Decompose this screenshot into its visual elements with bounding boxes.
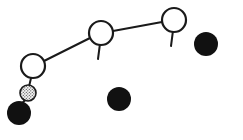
solid-nodes-layer — [7, 32, 218, 125]
solid-node-circle — [194, 32, 218, 56]
open-node-circle — [21, 54, 45, 78]
stipple-nodes-layer — [20, 85, 36, 101]
open-node-circle — [162, 8, 186, 32]
open-nodes-layer — [21, 8, 186, 78]
solid-node-circle — [107, 87, 131, 111]
node-stem — [98, 44, 100, 59]
connector-line — [44, 38, 90, 61]
diagram-canvas — [0, 0, 243, 140]
open-node-circle — [89, 21, 113, 45]
solid-node-circle — [7, 101, 31, 125]
connector-line — [113, 22, 162, 31]
node-stem — [171, 31, 173, 46]
stippled-node-circle — [20, 85, 36, 101]
diagram-svg — [0, 0, 243, 140]
